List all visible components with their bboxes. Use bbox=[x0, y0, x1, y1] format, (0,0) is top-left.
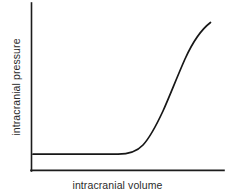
plot-area bbox=[0, 0, 235, 195]
x-axis-label: intracranial volume bbox=[0, 180, 235, 191]
chart-figure: intracranial volume intracranial pressur… bbox=[0, 0, 235, 195]
y-axis-label: intracranial pressure bbox=[11, 3, 25, 171]
pressure-volume-curve bbox=[33, 23, 211, 155]
